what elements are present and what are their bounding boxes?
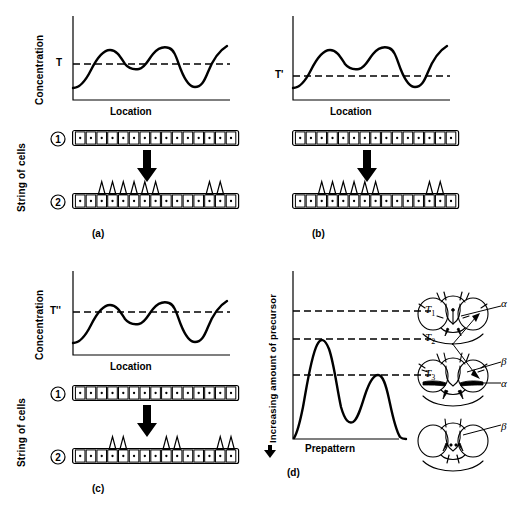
panel-d-x-axis-label: Prepattern xyxy=(305,443,355,454)
cell-nucleus-dot xyxy=(428,200,430,202)
cell-nucleus-dot xyxy=(396,200,398,202)
bristle xyxy=(109,182,116,195)
panel-a-row1-number: 1 xyxy=(50,131,66,147)
bristle xyxy=(372,182,379,195)
panel-a-tag: (a) xyxy=(92,228,104,239)
cell-nucleus-dot xyxy=(187,455,189,457)
cell-nucleus-dot xyxy=(219,392,221,394)
row-number-text: 2 xyxy=(55,197,61,208)
cell-nucleus-dot xyxy=(299,137,301,139)
cell-nucleus-dot xyxy=(101,137,103,139)
cell-nucleus-dot xyxy=(187,200,189,202)
cell-nucleus-dot xyxy=(428,137,430,139)
cell-nucleus-dot xyxy=(154,455,156,457)
fly-head-top-label-alpha: α xyxy=(501,297,507,309)
cell-nucleus-dot xyxy=(165,455,167,457)
row-number-text: 1 xyxy=(55,134,61,145)
bristle xyxy=(131,182,138,195)
panel-c-x-axis-label: Location xyxy=(110,361,152,372)
bristle xyxy=(228,437,235,450)
panel-d-increasing-arrow-icon xyxy=(259,445,281,459)
fly-head-middle xyxy=(415,350,505,408)
panel-b-threshold-label: T' xyxy=(275,69,284,80)
panel-b-cell-row-before xyxy=(292,129,464,147)
cell-nucleus-dot xyxy=(407,200,409,202)
panel-d-tag: (d) xyxy=(287,467,300,478)
panel-c-cell-row-after xyxy=(72,433,244,465)
cell-nucleus-dot xyxy=(208,200,210,202)
bristle xyxy=(351,182,358,195)
cell-nucleus-dot xyxy=(321,137,323,139)
cell-nucleus-dot xyxy=(230,455,232,457)
panel-c-row1-number: 1 xyxy=(50,386,66,402)
panel-a-y-axis-label: Concentration xyxy=(34,35,45,105)
bristle xyxy=(141,182,148,195)
cell-nucleus-dot xyxy=(418,137,420,139)
cell-nucleus-dot xyxy=(198,455,200,457)
cell-nucleus-dot xyxy=(176,137,178,139)
bristle xyxy=(217,182,224,195)
cell-group xyxy=(75,450,235,462)
fly-head-bottom xyxy=(415,415,505,473)
panel-a-x-axis-label: Location xyxy=(110,106,152,117)
cell-nucleus-dot xyxy=(219,455,221,457)
cell-group xyxy=(75,132,235,144)
panel-a-graph xyxy=(55,12,255,122)
panel-b-tag: (b) xyxy=(312,228,325,239)
cell-nucleus-dot xyxy=(176,392,178,394)
cell-nucleus-dot xyxy=(111,200,113,202)
panel-b-graph xyxy=(275,12,475,122)
cell-nucleus-dot xyxy=(79,392,81,394)
cell-nucleus-dot xyxy=(90,455,92,457)
cell-nucleus-dot xyxy=(133,137,135,139)
bristle xyxy=(120,437,127,450)
panel-a-threshold-label: T xyxy=(56,57,62,68)
bristle xyxy=(163,437,170,450)
cell-nucleus-dot xyxy=(396,137,398,139)
cell-nucleus-dot xyxy=(133,200,135,202)
bristle xyxy=(217,437,224,450)
cell-nucleus-dot xyxy=(353,200,355,202)
panel-c: Concentration T'' Location String of cel… xyxy=(0,255,253,509)
cell-nucleus-dot xyxy=(187,392,189,394)
bristle-group xyxy=(98,182,223,195)
cell-nucleus-dot xyxy=(364,137,366,139)
cell-nucleus-dot xyxy=(299,200,301,202)
cell-nucleus-dot xyxy=(144,137,146,139)
panel-a-cell-row-before xyxy=(72,129,244,147)
panel-c-tag: (c) xyxy=(92,483,104,494)
bristle xyxy=(120,182,127,195)
bristle xyxy=(98,182,105,195)
panel-d-precursor-curve xyxy=(294,340,406,439)
cell-nucleus-dot xyxy=(418,200,420,202)
cell-nucleus-dot xyxy=(353,137,355,139)
row-number-text: 1 xyxy=(55,389,61,400)
cell-nucleus-dot xyxy=(79,137,81,139)
cell-nucleus-dot xyxy=(219,200,221,202)
cell-nucleus-dot xyxy=(439,137,441,139)
cell-nucleus-dot xyxy=(385,200,387,202)
cell-nucleus-dot xyxy=(208,392,210,394)
cell-nucleus-dot xyxy=(165,392,167,394)
cell-nucleus-dot xyxy=(176,200,178,202)
fly-head-middle-label-beta: β xyxy=(501,355,506,367)
cell-nucleus-dot xyxy=(321,200,323,202)
cell-nucleus-dot xyxy=(122,200,124,202)
panel-c-graph xyxy=(55,267,255,377)
cell-group xyxy=(75,195,235,207)
cell-nucleus-dot xyxy=(208,455,210,457)
cell-nucleus-dot xyxy=(154,392,156,394)
panel-d: Increasing amount of precursor T1 T2 T3 … xyxy=(253,255,506,509)
cell-group xyxy=(75,387,235,399)
panel-a-string-of-cells-label: String of cells xyxy=(16,143,27,212)
cell-nucleus-dot xyxy=(230,392,232,394)
cell-nucleus-dot xyxy=(198,200,200,202)
panel-b-concentration-curve xyxy=(293,46,447,88)
fly-head-top xyxy=(415,288,505,346)
cell-nucleus-dot xyxy=(342,137,344,139)
cell-nucleus-dot xyxy=(122,455,124,457)
bristle xyxy=(426,182,433,195)
cell-nucleus-dot xyxy=(122,137,124,139)
cell-nucleus-dot xyxy=(198,137,200,139)
cell-nucleus-dot xyxy=(111,137,113,139)
